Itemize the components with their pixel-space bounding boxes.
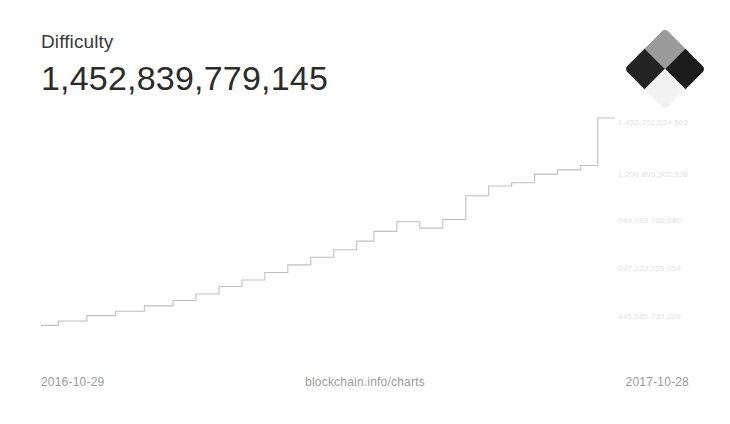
difficulty-series-line	[41, 118, 615, 325]
y-axis-label-3: 697,222,259,054	[618, 264, 681, 274]
y-axis-label-1: 1,200,895,302,336	[618, 170, 688, 180]
source-attribution[interactable]: blockchain.info/charts	[0, 372, 730, 392]
chart-footer: 2016-10-29 blockchain.info/charts 2017-1…	[0, 372, 730, 392]
y-axis-label-2: 949,058,780,680	[618, 216, 681, 226]
current-value: 1,452,839,779,145	[41, 57, 601, 99]
chart-screenshot: Difficulty 1,452,839,779,145 1,452,791,8…	[0, 0, 730, 424]
page-title: Difficulty	[41, 30, 601, 54]
y-axis-label-0: 1,452,791,824,503	[618, 118, 688, 128]
x-axis-end-date: 2017-10-28	[626, 372, 689, 392]
diamond-icon	[624, 28, 706, 110]
blockchain-logo	[624, 28, 706, 110]
y-axis-label-4: 445,385,737,229	[618, 312, 681, 322]
chart-header: Difficulty 1,452,839,779,145	[41, 30, 601, 99]
